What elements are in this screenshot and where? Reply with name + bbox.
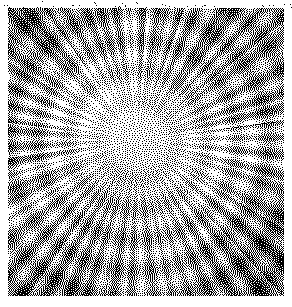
figure-root: A full-bleed error-diffusion dithered bi… [0, 0, 292, 307]
radial-burst-bitmap [8, 8, 284, 296]
faint-dither-strip [0, 0, 292, 8]
